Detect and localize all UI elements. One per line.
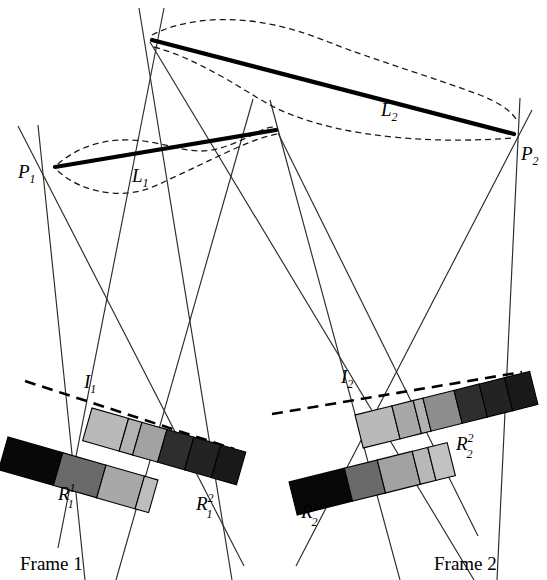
label-I2: I2 [340, 366, 353, 391]
frame2-bars [289, 371, 538, 515]
thick-line-group [55, 40, 514, 167]
figure-canvas: P1 P2 L1 L2 I1 I2 R11 R21 [0, 0, 547, 580]
uncertainty-band-l2-lower [154, 47, 513, 140]
bar-segment [0, 437, 63, 485]
label-I1: I1 [83, 371, 96, 396]
bar-segment [289, 468, 353, 515]
label-group: P1 P2 L1 L2 I1 I2 R11 R21 [17, 99, 539, 574]
label-frame-2: Frame 2 [434, 553, 497, 574]
label-R2-sup1: R12 [300, 499, 319, 529]
label-frame-1: Frame 1 [20, 553, 83, 574]
uncertainty-band-group [58, 20, 516, 194]
label-L1: L1 [131, 165, 149, 190]
line-L1 [55, 130, 276, 167]
uncertainty-band-l2-upper [152, 20, 516, 119]
label-P1: P1 [17, 161, 36, 186]
uncertainty-band-l1-upper [58, 127, 277, 164]
label-P2: P2 [520, 143, 539, 168]
line-L2 [152, 40, 514, 134]
ray-p1-vertical [38, 125, 85, 580]
bar-R2-sub2-sup2 [355, 371, 538, 448]
label-R1-sup2: R21 [195, 491, 214, 521]
label-R2-sup2: R22 [455, 431, 474, 461]
